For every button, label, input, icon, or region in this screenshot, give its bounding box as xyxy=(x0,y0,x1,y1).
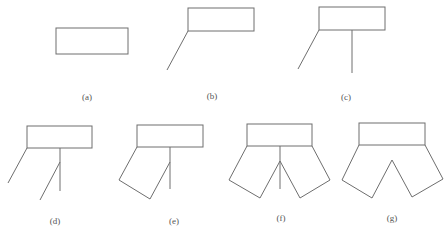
panel-c: (c) xyxy=(298,7,385,102)
left-folded-polyline xyxy=(229,146,280,198)
rectangle xyxy=(137,125,203,147)
rectangle xyxy=(188,8,254,31)
rectangle xyxy=(27,126,92,148)
panel-b: (b) xyxy=(167,8,254,101)
panel-label: (a) xyxy=(82,92,92,102)
figure-canvas: (a) (b) (c) (d) (e) (f) (g xyxy=(0,0,445,233)
panel-g: (g) xyxy=(342,123,443,223)
rectangle xyxy=(319,7,385,30)
left-slanted-line xyxy=(167,31,188,70)
closed-folded-polyline xyxy=(342,145,443,198)
center-slanted-line xyxy=(40,162,60,200)
right-folded-polyline xyxy=(280,146,330,198)
panel-e: (e) xyxy=(119,125,203,226)
panel-label: (g) xyxy=(387,213,398,223)
rectangle xyxy=(359,123,425,145)
panel-label: (b) xyxy=(207,91,218,101)
panel-d: (d) xyxy=(8,126,92,226)
left-slanted-line xyxy=(8,148,27,183)
rectangle xyxy=(247,124,312,146)
panel-label: (c) xyxy=(341,92,351,102)
panel-label: (e) xyxy=(169,216,179,226)
rectangle xyxy=(56,28,128,54)
panel-a: (a) xyxy=(56,28,128,102)
panel-label: (d) xyxy=(50,216,61,226)
left-folded-polyline xyxy=(119,147,170,199)
left-slanted-line xyxy=(298,30,319,69)
panel-label: (f) xyxy=(277,213,286,223)
panel-f: (f) xyxy=(229,124,330,223)
